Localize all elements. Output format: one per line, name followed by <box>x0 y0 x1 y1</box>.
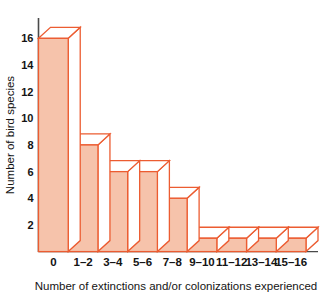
histogram-bar <box>39 27 81 251</box>
y-tick-label: 12 <box>21 86 33 98</box>
bar-side-face <box>68 27 80 251</box>
y-axis-title: Number of bird species <box>4 76 16 194</box>
y-tick-label: 16 <box>21 32 33 44</box>
y-tick-label: 6 <box>27 166 33 178</box>
y-tick-label: 2 <box>27 219 33 231</box>
x-tick-label: 11–12 <box>216 256 247 268</box>
bar-group <box>39 27 319 251</box>
x-tick-label: 3–4 <box>103 256 123 268</box>
bar-side-face <box>98 134 110 252</box>
x-axis-title: Number of extinctions and/or colonizatio… <box>35 280 318 292</box>
x-tick-label: 1–2 <box>73 256 92 268</box>
y-tick-label: 4 <box>27 192 34 204</box>
x-tick-label: 9–10 <box>189 256 215 268</box>
x-axis-tick-labels: 01–23–45–67–89–1011–1213–1415–16 <box>50 256 307 268</box>
x-tick-label: 5–6 <box>133 256 152 268</box>
bar-side-face <box>128 161 140 252</box>
y-tick-label: 8 <box>27 139 33 151</box>
figure-container: 246810121416 01–23–45–67–89–1011–1213–14… <box>0 0 325 298</box>
x-tick-label: 15–16 <box>275 256 307 268</box>
y-tick-label: 10 <box>21 112 33 124</box>
bar-front-face <box>39 38 69 251</box>
x-tick-label: 7–8 <box>163 256 183 268</box>
bar-side-face <box>157 161 169 252</box>
x-tick-label: 0 <box>50 256 56 268</box>
y-tick-label: 14 <box>21 59 34 71</box>
histogram-chart: 246810121416 01–23–45–67–89–1011–1213–14… <box>0 0 325 298</box>
x-tick-label: 13–14 <box>245 256 278 268</box>
